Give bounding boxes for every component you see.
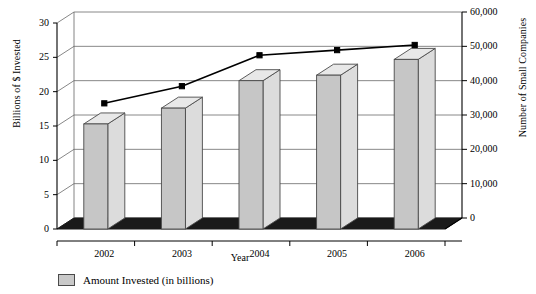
bar-side-face	[108, 113, 125, 229]
x-tick-2003: 2003	[160, 248, 204, 259]
left-tick-25: 25	[15, 52, 49, 62]
bar-side-face	[418, 48, 435, 229]
bar-front-face	[239, 81, 263, 229]
right-axis-title: Number of Small Companies	[517, 8, 528, 148]
chart-container: Billions of $ Invested Number of Small C…	[0, 0, 536, 294]
chart-legend: Amount Invested (in billions)	[58, 274, 213, 286]
right-tick-0: 0	[470, 213, 516, 223]
right-tick-30000: 30,000	[470, 110, 516, 120]
bar-color-swatch	[58, 274, 75, 286]
bar-front-face	[394, 59, 418, 229]
bar-side-face	[341, 64, 358, 229]
bar-front-face	[317, 75, 341, 229]
right-tick-20000: 20,000	[470, 144, 516, 154]
right-tick-60000: 60,000	[470, 7, 516, 17]
left-tick-5: 5	[15, 190, 49, 200]
x-tick-2006: 2006	[393, 248, 437, 259]
line-data-point	[257, 53, 262, 58]
bar-side-face	[185, 97, 202, 229]
right-tick-10000: 10,000	[470, 179, 516, 189]
bar-series	[84, 48, 435, 229]
left-tick-15: 15	[15, 121, 49, 131]
line-data-point	[335, 48, 340, 53]
line-data-point	[412, 42, 417, 47]
x-tick-2002: 2002	[82, 248, 126, 259]
axis-wall-connectors	[57, 12, 74, 229]
left-tick-20: 20	[15, 87, 49, 97]
bar-front-face	[161, 108, 185, 229]
bar-front-face	[84, 124, 108, 229]
left-tick-30: 30	[15, 18, 49, 28]
x-tick-2004: 2004	[238, 248, 282, 259]
line-data-point	[102, 101, 107, 106]
right-tick-50000: 50,000	[470, 41, 516, 51]
x-tick-2005: 2005	[315, 248, 359, 259]
right-tick-40000: 40,000	[470, 76, 516, 86]
legend-label-amount-invested: Amount Invested (in billions)	[83, 274, 213, 286]
line-data-point	[179, 84, 184, 89]
bar-side-face	[263, 70, 280, 229]
left-tick-0: 0	[15, 224, 49, 234]
left-tick-10: 10	[15, 155, 49, 165]
